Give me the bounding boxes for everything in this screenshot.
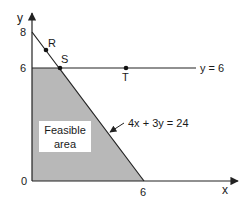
point-r-label: R (48, 37, 56, 49)
x-tick-6: 6 (140, 186, 146, 198)
line-diagonal-label: 4x + 3y = 24 (128, 117, 189, 129)
feasible-label-line2: area (54, 138, 77, 150)
point-t (124, 66, 129, 71)
x-axis-label: x (222, 183, 228, 197)
y-axis-label: y (17, 11, 23, 25)
pointer-arrow (110, 123, 124, 132)
point-t-label: T (122, 71, 129, 83)
lp-diagram: Feasible area R S T y x 0 8 6 6 y = 6 4x… (0, 0, 249, 205)
point-s-label: S (61, 53, 68, 65)
y-tick-8: 8 (20, 26, 26, 38)
origin-label: 0 (21, 175, 27, 187)
point-s (58, 66, 63, 71)
y-tick-6: 6 (20, 62, 26, 74)
line-y6-label: y = 6 (200, 62, 224, 74)
feasible-label-line1: Feasible (44, 124, 86, 136)
